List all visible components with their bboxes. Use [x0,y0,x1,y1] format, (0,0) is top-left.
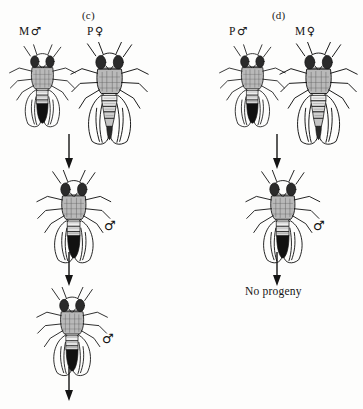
fly-illustration-parent-female-d [279,42,358,151]
panel-c-parent-male-label: M♂ [19,24,42,38]
figure-canvas: (c) M♂ P♀ [0,0,363,409]
panel-d-parent-male-label: P♂ [229,24,248,38]
fly-illustration-parent-female-c [70,42,149,151]
fly-illustration-parent-male-d [218,44,287,132]
panel-d-caption: (d) [272,9,285,21]
panel-c-f2-male-symbol-icon: ♂ [102,331,114,346]
panel-c-arrow-f1-to-f2 [62,252,76,287]
panel-c-caption: (c) [82,9,95,21]
panel-c-arrow-f2-to-next [62,367,76,402]
panel-d-outcome-text: No progeny [245,285,302,297]
panel-d-parent-male-strain: P [229,25,236,37]
panel-c-parent-male-strain: M [19,25,30,37]
panel-c-parent-female-strain: P [87,25,94,37]
male-symbol-icon: ♂ [236,24,248,38]
panel-c-arrow-parents-to-f1 [62,134,76,170]
fly-illustration-parent-male-c [8,44,77,132]
panel-d-arrow-parents-to-f1 [270,134,284,170]
panel-d-arrow-f1-to-outcome [270,252,284,287]
female-symbol-icon: ♀ [94,24,104,38]
panel-d-f1-male-symbol-icon: ♂ [313,218,325,233]
panel-c-parent-female-label: P♀ [87,24,104,38]
female-symbol-icon: ♀ [306,24,316,38]
panel-d-parent-female-strain: M [295,25,306,37]
male-symbol-icon: ♂ [30,24,42,38]
panel-d-parent-female-label: M♀ [295,24,316,38]
panel-c-f1-male-symbol-icon: ♂ [104,218,116,233]
